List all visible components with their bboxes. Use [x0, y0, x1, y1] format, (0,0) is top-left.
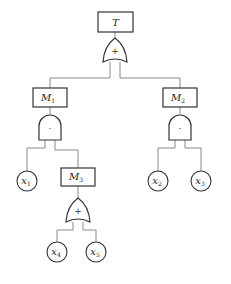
- connector-gate-x5: [83, 222, 96, 242]
- intermediate-event-M3: M3: [61, 168, 95, 186]
- intermediate-event-M2: M2: [163, 88, 197, 107]
- basic-event-x3: x3: [191, 171, 211, 191]
- connector-gate-x3: [185, 140, 201, 171]
- connector-gate-x2: [158, 140, 175, 171]
- connector-gate-M3: [55, 140, 78, 168]
- basic-event-x2: x2: [148, 171, 168, 191]
- and-gate-M1: ·: [39, 115, 61, 140]
- or-gate-M3: +: [66, 198, 90, 222]
- basic-event-x5: x5: [86, 242, 106, 262]
- gate-symbol: +: [74, 206, 82, 216]
- connector-gate-x4: [57, 222, 73, 242]
- gate-symbol: ·: [49, 124, 52, 134]
- gate-symbol: +: [111, 46, 119, 56]
- top-event-T: T: [98, 12, 133, 32]
- connector-gate-M2: [120, 62, 180, 88]
- basic-event-x1: x1: [17, 171, 37, 191]
- connector-gate-x1: [27, 140, 45, 171]
- and-gate-M2: ·: [169, 115, 191, 140]
- basic-event-x4: x4: [47, 242, 67, 262]
- connector-gate-M1: [50, 62, 110, 88]
- or-gate-top: +: [103, 38, 127, 62]
- gate-symbol: ·: [179, 124, 182, 134]
- fault-tree-diagram: T + M1 M2 · · x1 M3 x2 x3: [0, 0, 231, 284]
- intermediate-event-M1: M1: [33, 88, 67, 107]
